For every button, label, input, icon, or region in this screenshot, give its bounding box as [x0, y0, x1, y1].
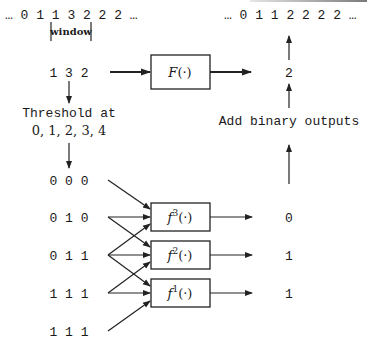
output-sequence: … 0 1 1 2 2 2 2 …: [224, 8, 357, 23]
threshold-label: Threshold at: [22, 106, 116, 121]
main-filter-label: F(·): [167, 65, 191, 80]
svg-text:f2(·): f2(·): [167, 246, 193, 263]
binary-row-4: 1 1 1: [49, 325, 88, 340]
window-label: window: [49, 26, 92, 37]
svg-text:f3(·): f3(·): [167, 208, 193, 225]
stack-filter-f1: f1(·): [151, 279, 210, 307]
row-to-filter-connections: [108, 180, 150, 331]
f2-output-value: 1: [285, 249, 293, 264]
stack-filter-f3: f3(·): [151, 203, 210, 231]
f3-output-value: 0: [285, 211, 293, 226]
binary-row-3: 1 1 1: [49, 287, 88, 302]
f1-output-value: 1: [285, 287, 293, 302]
window-values: 1 3 2: [49, 66, 88, 81]
stack-filter-f2: f2(·): [151, 241, 210, 269]
add-binary-outputs-label: Add binary outputs: [219, 114, 359, 129]
svg-text:f1(·): f1(·): [167, 284, 193, 301]
main-filter-box: F(·): [151, 55, 210, 89]
stack-filter-diagram: … 0 1 1 3 2 2 2 … window … 0 1 1 2 2 2 2…: [0, 0, 367, 347]
main-output-value: 2: [285, 66, 293, 81]
input-sequence: … 0 1 1 3 2 2 2 …: [5, 8, 138, 23]
threshold-levels: 0, 1, 2, 3, 4: [32, 123, 106, 138]
binary-row-2: 0 1 1: [49, 249, 88, 264]
binary-row-1: 0 1 0: [49, 211, 88, 226]
binary-row-0: 0 0 0: [49, 174, 88, 189]
window-bracket: window: [49, 22, 92, 41]
